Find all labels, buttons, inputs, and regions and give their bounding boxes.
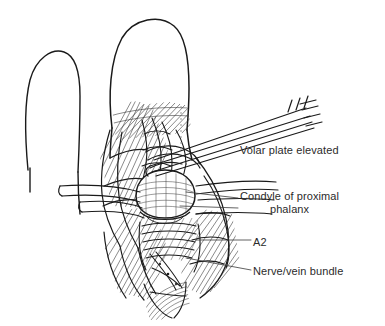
fingertip-shading xyxy=(108,98,200,153)
label-nerve-vein-bundle: Nerve/vein bundle xyxy=(253,265,343,278)
label-volar-plate-elevated: Volar plate elevated xyxy=(240,144,339,157)
operated-finger-outline xyxy=(110,19,192,160)
condyle-of-proximal-phalanx xyxy=(136,170,195,224)
bottom-tail xyxy=(144,282,186,318)
label-condyle-line-2: phalanx xyxy=(270,203,309,215)
right-flap xyxy=(190,158,230,298)
label-a2-pulley: A2 xyxy=(253,236,267,249)
label-condyle-of-proximal-phalanx: Condyle of proximalphalanx xyxy=(240,190,339,216)
medical-illustration-figure: Volar plate elevated Condyle of proximal… xyxy=(0,0,385,326)
adjacent-finger xyxy=(26,51,80,214)
right-flap-hatching xyxy=(177,208,240,294)
label-condyle-line-1: Condyle of proximal xyxy=(240,190,339,202)
